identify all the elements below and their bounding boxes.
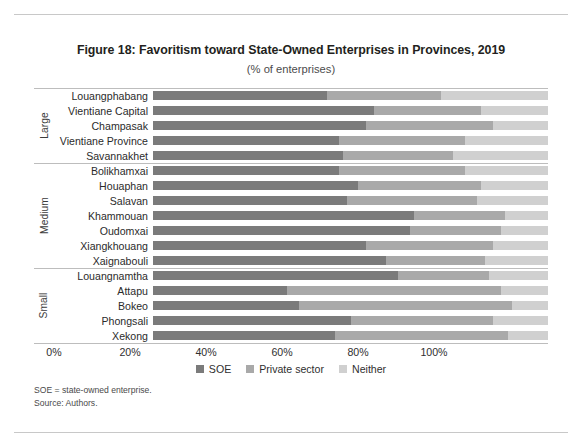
bar-segment-soe: [153, 271, 398, 280]
bar-segment-private-sector: [366, 241, 492, 250]
bar-segment-soe: [153, 181, 358, 190]
x-axis-tick-label: 0%: [46, 346, 61, 358]
x-axis-tick-label: 100%: [420, 346, 447, 358]
bar-row: Vientiane Province: [54, 133, 548, 148]
bar-row: Vientiane Capital: [54, 103, 548, 118]
legend-item-private-sector[interactable]: Private sector: [246, 363, 324, 375]
bar-segment-private-sector: [358, 181, 480, 190]
bar-segment-neither: [453, 151, 548, 160]
group-label-large: Large: [34, 88, 54, 163]
bar-row-label: Phongsali: [54, 315, 153, 327]
legend-swatch-icon: [339, 365, 347, 373]
bar-segment-private-sector: [287, 286, 500, 295]
bar-row-label: Louangphabang: [54, 90, 153, 102]
bar-row: Louangphabang: [54, 88, 548, 103]
x-axis-tick-label: 40%: [195, 346, 216, 358]
bar-segment-neither: [481, 106, 548, 115]
bar-segment-neither: [441, 91, 548, 100]
stacked-bar: [153, 226, 548, 235]
legend-item-neither[interactable]: Neither: [339, 363, 386, 375]
group-label-text: Medium: [39, 197, 50, 234]
bar-segment-soe: [153, 166, 339, 175]
bar-segment-soe: [153, 136, 339, 145]
group-label-medium: Medium: [34, 163, 54, 268]
bar-segment-neither: [512, 301, 548, 310]
bar-segment-private-sector: [351, 316, 493, 325]
bar-segment-soe: [153, 286, 287, 295]
bar-row: Bokeo: [54, 298, 548, 313]
bar-segment-soe: [153, 301, 299, 310]
stacked-bar: [153, 241, 548, 250]
bar-segment-soe: [153, 241, 366, 250]
bar-row-label: Vientiane Province: [54, 135, 153, 147]
x-axis-tick-label: 20%: [119, 346, 140, 358]
group-separator: [34, 88, 548, 89]
figure-bottom-rule: [14, 432, 568, 433]
bar-segment-neither: [485, 256, 548, 265]
bar-segment-neither: [501, 286, 548, 295]
bar-row: Xaignabouli: [54, 253, 548, 268]
x-axis: 0%20%40%60%80%100%: [54, 346, 434, 362]
bar-segment-private-sector: [398, 271, 489, 280]
bar-row: Houaphan: [54, 178, 548, 193]
stacked-bar: [153, 121, 548, 130]
bar-segment-neither: [493, 241, 548, 250]
group-separator: [34, 163, 548, 164]
bar-segment-neither: [493, 121, 548, 130]
legend-swatch-icon: [196, 365, 204, 373]
bar-rows: LouangphabangVientiane CapitalChampasakV…: [54, 88, 548, 343]
bar-row: Champasak: [54, 118, 548, 133]
bar-segment-private-sector: [414, 211, 505, 220]
bar-segment-soe: [153, 256, 386, 265]
bar-row: Salavan: [54, 193, 548, 208]
group-label-text: Large: [39, 112, 50, 139]
stacked-bar: [153, 136, 548, 145]
bar-segment-neither: [477, 196, 548, 205]
note-soe-definition: SOE = state-owned enterprise.: [34, 384, 152, 397]
bar-segment-neither: [481, 181, 548, 190]
bar-segment-private-sector: [410, 226, 501, 235]
bar-segment-private-sector: [339, 166, 465, 175]
stacked-bar: [153, 181, 548, 190]
bar-row: Khammouan: [54, 208, 548, 223]
bar-segment-private-sector: [386, 256, 485, 265]
stacked-bar: [153, 331, 548, 340]
bar-segment-neither: [501, 226, 548, 235]
bar-row-label: Savannakhet: [54, 150, 153, 162]
bar-row: Oudomxai: [54, 223, 548, 238]
bar-segment-neither: [489, 271, 548, 280]
bar-row: Xiangkhouang: [54, 238, 548, 253]
bar-segment-neither: [465, 166, 548, 175]
stacked-bar: [153, 106, 548, 115]
bar-row-label: Vientiane Capital: [54, 105, 153, 117]
group-label-text: Small: [39, 293, 50, 319]
stacked-bar: [153, 286, 548, 295]
bar-row-label: Khammouan: [54, 210, 153, 222]
bar-row: Bolikhamxai: [54, 163, 548, 178]
bar-segment-soe: [153, 331, 335, 340]
stacked-bar: [153, 316, 548, 325]
bar-segment-neither: [508, 331, 548, 340]
legend-item-soe[interactable]: SOE: [196, 363, 231, 375]
x-axis-tick-label: 60%: [271, 346, 292, 358]
figure-container: Figure 18: Favoritism toward State-Owned…: [0, 0, 582, 447]
legend-swatch-icon: [246, 365, 254, 373]
bar-segment-private-sector: [343, 151, 454, 160]
group-label-column: LargeMediumSmall: [34, 88, 54, 343]
bar-row: Xekong: [54, 328, 548, 343]
group-separator: [34, 343, 548, 344]
stacked-bar: [153, 301, 548, 310]
group-separator: [34, 268, 548, 269]
legend-label: Private sector: [259, 363, 324, 375]
bar-segment-soe: [153, 121, 366, 130]
stacked-bar: [153, 166, 548, 175]
chart-header: Figure 18: Favoritism toward State-Owned…: [0, 42, 582, 76]
bar-segment-neither: [465, 136, 548, 145]
bar-segment-soe: [153, 211, 414, 220]
stacked-bar: [153, 196, 548, 205]
bar-row-label: Xiangkhouang: [54, 240, 153, 252]
legend-label: Neither: [352, 363, 386, 375]
stacked-bar: [153, 211, 548, 220]
chart-legend: SOEPrivate sectorNeither: [0, 363, 582, 375]
bar-row: Savannakhet: [54, 148, 548, 163]
